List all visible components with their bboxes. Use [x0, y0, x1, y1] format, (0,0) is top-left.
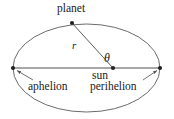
aphelion-leader-arrow: [17, 71, 33, 81]
orbit-diagram: planet sun aphelion perihelion r θ: [0, 0, 174, 119]
aphelion-point: [11, 66, 15, 70]
perihelion-label: perihelion: [90, 81, 137, 93]
planet-label: planet: [57, 3, 85, 15]
radius-label: r: [72, 40, 76, 51]
aphelion-label: aphelion: [28, 81, 68, 93]
sun-point: [111, 66, 115, 70]
perihelion-leader-arrow: [143, 71, 157, 81]
orbit-figure-svg: [0, 0, 174, 119]
angle-theta-label: θ: [104, 52, 110, 64]
perihelion-point: [158, 66, 162, 70]
planet-point: [70, 21, 74, 25]
